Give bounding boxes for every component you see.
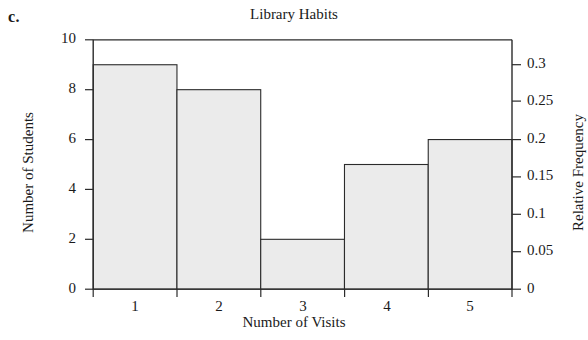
- y-tick-label-6: 6: [36, 130, 76, 147]
- y2-tick-label-0.2: 0.2: [527, 130, 575, 147]
- y2-tick-label-0.15: 0.15: [527, 167, 575, 184]
- bar-3: [261, 239, 345, 289]
- x-tick-label-2: 2: [199, 298, 239, 315]
- figure-container: c. Library Habits Number of Students Rel…: [0, 0, 588, 340]
- y2-tick-label-0: 0: [527, 280, 575, 297]
- bar-1: [93, 65, 177, 289]
- y2-axis-ticks: [512, 65, 521, 290]
- x-tick-label-1: 1: [115, 298, 155, 315]
- x-tick-label-5: 5: [450, 298, 490, 315]
- bar-2: [177, 90, 261, 290]
- y-tick-label-8: 8: [36, 80, 76, 97]
- y-tick-label-0: 0: [36, 280, 76, 297]
- y-axis-ticks: [85, 40, 93, 289]
- y2-tick-label-0.3: 0.3: [527, 55, 575, 72]
- bars-group: [93, 65, 512, 289]
- y2-tick-label-0.05: 0.05: [527, 242, 575, 259]
- bar-5: [428, 140, 512, 290]
- x-axis-ticks: [93, 289, 512, 297]
- histogram-plot: [0, 0, 588, 340]
- y2-tick-label-0.25: 0.25: [527, 92, 575, 109]
- y2-tick-label-0.1: 0.1: [527, 205, 575, 222]
- bar-4: [344, 165, 428, 290]
- x-tick-label-3: 3: [283, 298, 323, 315]
- y-tick-label-2: 2: [36, 230, 76, 247]
- y-tick-label-4: 4: [36, 180, 76, 197]
- y-tick-label-10: 10: [36, 30, 76, 47]
- x-tick-label-4: 4: [367, 298, 407, 315]
